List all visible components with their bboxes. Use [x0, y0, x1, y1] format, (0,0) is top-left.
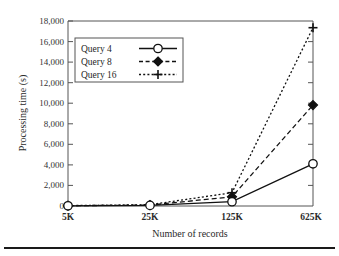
y-tick-label-14000: 14,000 — [39, 57, 64, 67]
legend-label-query-8: Query 8 — [81, 57, 112, 67]
legend-label-query-16: Query 16 — [81, 70, 117, 80]
y-axis-ticks — [68, 21, 73, 206]
chart-legend: Query 4 Query 8 Query 16 — [75, 38, 183, 82]
y-axis-tick-labels: 0 2,000 4,000 6,000 8,000 10,000 12,000 … — [39, 16, 64, 211]
marker-query-16-625k — [309, 23, 318, 32]
x-axis-tick-labels: 5K 25K 125K 625K — [62, 212, 323, 222]
x-tick-label-625k: 625K — [300, 212, 322, 222]
y-tick-label-6000: 6,000 — [44, 139, 65, 149]
processing-time-line-chart: 0 2,000 4,000 6,000 8,000 10,000 12,000 … — [0, 0, 339, 256]
x-axis-title: Number of records — [152, 228, 228, 239]
y-tick-label-10000: 10,000 — [39, 98, 64, 108]
y-tick-label-2000: 2,000 — [44, 180, 65, 190]
x-tick-label-25k: 25K — [142, 212, 160, 222]
y-tick-label-8000: 8,000 — [44, 119, 65, 129]
bottom-horizontal-rule — [4, 247, 335, 249]
y-tick-label-16000: 16,000 — [39, 37, 64, 47]
y-tick-label-18000: 18,000 — [39, 16, 64, 26]
legend-label-query-4: Query 4 — [81, 44, 112, 54]
y-axis-title: Processing time (s) — [17, 75, 29, 152]
y-tick-label-12000: 12,000 — [39, 78, 64, 88]
series-query-4 — [64, 160, 317, 210]
series-line-query-4 — [68, 164, 313, 206]
figure-container: 0 2,000 4,000 6,000 8,000 10,000 12,000 … — [0, 0, 339, 256]
series-query-8 — [64, 101, 318, 211]
marker-query-4-625k — [309, 160, 317, 168]
legend-marker-query-4 — [154, 44, 162, 52]
marker-query-4-125k — [228, 198, 236, 206]
x-tick-label-5k: 5K — [62, 212, 75, 222]
series-line-query-8 — [68, 105, 313, 206]
x-tick-label-125k: 125K — [221, 212, 243, 222]
y-tick-label-4000: 4,000 — [44, 160, 65, 170]
marker-query-4-5k — [64, 202, 72, 210]
marker-query-4-25k — [146, 201, 154, 209]
